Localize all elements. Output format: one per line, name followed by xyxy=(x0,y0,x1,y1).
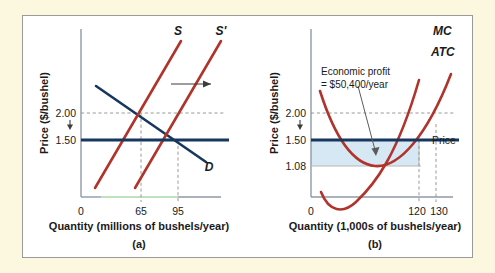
panel-a-label-demand: D xyxy=(205,160,214,174)
panel-b-xtick-0: 0 xyxy=(308,205,314,217)
figure-container: 2.00 1.50 0 65 95 S S' D Price ($/bushel… xyxy=(0,0,495,273)
panel-b-xtick-130: 130 xyxy=(430,205,448,217)
panel-b-y-axis-title: Price ($/bushel) xyxy=(268,72,280,154)
panel-b-annotation-line1: Economic profit xyxy=(321,66,390,77)
panel-a-panel-label: (a) xyxy=(132,238,146,250)
panel-b-xtick-120: 120 xyxy=(408,205,426,217)
panel-b-label-atc: ATC xyxy=(430,45,455,59)
panel-b-price-drop-arrow xyxy=(297,120,303,130)
panel-a-price-drop-arrow xyxy=(67,120,73,130)
panel-b-group: Economic profit = $50,400/year 2.00 1.50… xyxy=(268,24,462,250)
panel-a-shift-arrow xyxy=(171,81,211,88)
panel-a-xtick-0: 0 xyxy=(78,205,84,217)
panel-b-ytick-150: 1.50 xyxy=(286,134,307,146)
panel-a-label-supply: S xyxy=(174,24,182,38)
panel-a-x-axis-title: Quantity (millions of bushels/year) xyxy=(49,220,230,232)
panel-b-label-mc: MC xyxy=(433,24,452,38)
panel-a-xtick-95: 95 xyxy=(172,205,184,217)
panel-b-x-axis-title: Quantity (1,000s of bushels/year) xyxy=(289,220,462,232)
panel-b-ytick-108: 1.08 xyxy=(286,160,307,172)
panel-a-label-supply-shifted: S' xyxy=(216,24,228,38)
panel-b-label-price: Price xyxy=(432,134,456,146)
panel-b-panel-label: (b) xyxy=(368,238,382,250)
figure-inner-panel: 2.00 1.50 0 65 95 S S' D Price ($/bushel… xyxy=(22,15,473,258)
panel-a-y-axis-title: Price ($/bushel) xyxy=(38,72,50,154)
figure-svg: 2.00 1.50 0 65 95 S S' D Price ($/bushel… xyxy=(23,16,472,257)
panel-b-ytick-200: 2.00 xyxy=(286,107,307,119)
panel-a-supply-curve xyxy=(95,41,181,188)
panel-a-xtick-65: 65 xyxy=(135,205,147,217)
panel-a-group: 2.00 1.50 0 65 95 S S' D Price ($/bushel… xyxy=(38,24,229,250)
panel-b-annotation-line2: = $50,400/year xyxy=(321,79,389,90)
panel-a-ytick-200: 2.00 xyxy=(56,107,77,119)
panel-a-ytick-150: 1.50 xyxy=(56,134,77,146)
